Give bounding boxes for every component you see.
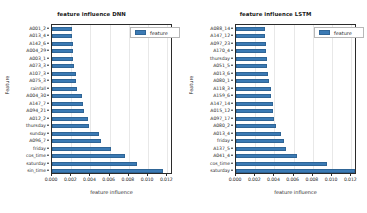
bar [52, 147, 111, 151]
bar [52, 57, 73, 61]
x-tick-mark [51, 174, 52, 176]
y-tick-label: A004_30 [26, 93, 46, 98]
bar [236, 34, 265, 38]
x-tick-label: 0.006 [102, 177, 115, 182]
bar-row [236, 162, 356, 166]
y-tick-mark [47, 162, 49, 163]
y-tick-mark [47, 80, 49, 81]
legend-dnn: feature [130, 27, 180, 38]
bar [236, 27, 265, 31]
x-tick-label: 0.004 [83, 177, 96, 182]
figure-canvas: feature influence DNN Feature A001_2A013… [0, 0, 367, 213]
x-axis-ticks-dnn: 0.0000.0020.0040.0060.0080.0100.012 [51, 174, 172, 188]
y-tick-mark [47, 27, 49, 28]
y-tick-label: A080_2 [213, 123, 230, 128]
bar [52, 72, 76, 76]
x-tick-label: 0.008 [305, 177, 318, 182]
y-tick-label: A004_29 [26, 48, 46, 53]
y-tick-mark [47, 147, 49, 148]
x-tick-mark [350, 174, 351, 176]
bar-row [236, 109, 356, 113]
y-tick-mark [231, 117, 233, 118]
y-tick-label: sunday [30, 130, 46, 135]
y-tick-label: A170_4 [213, 48, 230, 53]
x-tick-label: 0.002 [64, 177, 77, 182]
bar-row [52, 132, 172, 136]
x-tick-mark [293, 174, 294, 176]
bar [52, 169, 163, 173]
bar-row [52, 79, 172, 83]
y-tick-mark [231, 147, 233, 148]
x-tick-label: 0.006 [286, 177, 299, 182]
bar-row [52, 72, 172, 76]
y-tick-mark [47, 117, 49, 118]
bar-row [52, 162, 172, 166]
bar [236, 162, 327, 166]
bar-row [52, 64, 172, 68]
bar-series-dnn [52, 25, 171, 173]
y-tick-mark [231, 110, 233, 111]
bar-row [52, 87, 172, 91]
x-axis-ticks-lstm: 0.0000.0020.0040.0060.0080.0100.012 [235, 174, 356, 188]
legend-label-lstm: feature [334, 30, 352, 36]
x-tick-label: 0.002 [248, 177, 261, 182]
y-tick-mark [231, 102, 233, 103]
bar-row [236, 72, 356, 76]
chart-title-dnn: feature influence DNN [0, 11, 183, 17]
y-tick-mark [47, 72, 49, 73]
x-tick-mark [89, 174, 90, 176]
bar [52, 132, 99, 136]
y-tick-label: A118_3 [213, 85, 230, 90]
x-tick-label: 0.004 [267, 177, 280, 182]
bar [236, 102, 273, 106]
y-tick-mark [47, 95, 49, 96]
y-tick-mark [47, 102, 49, 103]
bar [236, 57, 267, 61]
bar-row [236, 169, 356, 173]
y-tick-mark [231, 35, 233, 36]
y-tick-label: friday [217, 138, 230, 143]
y-axis-labels-dnn: A001_2A013_4A142_6A004_29A003_1A073_3A10… [0, 24, 49, 174]
y-tick-mark [231, 65, 233, 66]
bar [52, 94, 82, 98]
bar [52, 49, 73, 53]
bar-row [236, 117, 356, 121]
bar [52, 34, 72, 38]
bar-row [52, 49, 172, 53]
y-tick-label: A097_23 [210, 40, 230, 45]
y-tick-label: A159_6 [213, 93, 230, 98]
x-tick-mark [166, 174, 167, 176]
bar-row [52, 124, 172, 128]
y-tick-label: cos_time [210, 160, 230, 165]
y-tick-mark [47, 155, 49, 156]
bar-row [236, 154, 356, 158]
bar-row [236, 94, 356, 98]
y-tick-mark [231, 87, 233, 88]
y-tick-mark [47, 140, 49, 141]
bar [52, 124, 89, 128]
bar [236, 49, 266, 53]
bar [236, 79, 269, 83]
bar [236, 117, 274, 121]
bar [52, 117, 88, 121]
x-tick-mark [254, 174, 255, 176]
bar [236, 147, 286, 151]
x-tick-mark [273, 174, 274, 176]
y-tick-label: A080_1 [213, 78, 230, 83]
y-tick-label: A147_14 [210, 100, 230, 105]
y-tick-mark [47, 57, 49, 58]
x-tick-label: 0.000 [45, 177, 58, 182]
x-tick-mark [109, 174, 110, 176]
x-tick-mark [235, 174, 236, 176]
y-tick-label: A041_4 [213, 153, 230, 158]
y-tick-mark [231, 140, 233, 141]
bar-row [52, 139, 172, 143]
plot-area-lstm [235, 24, 356, 174]
legend-swatch-icon [319, 30, 330, 35]
y-tick-mark [47, 132, 49, 133]
bar [52, 27, 72, 31]
y-tick-mark [231, 50, 233, 51]
bar-row [236, 147, 356, 151]
x-tick-label: 0.012 [160, 177, 173, 182]
y-tick-label: A073_3 [29, 63, 46, 68]
